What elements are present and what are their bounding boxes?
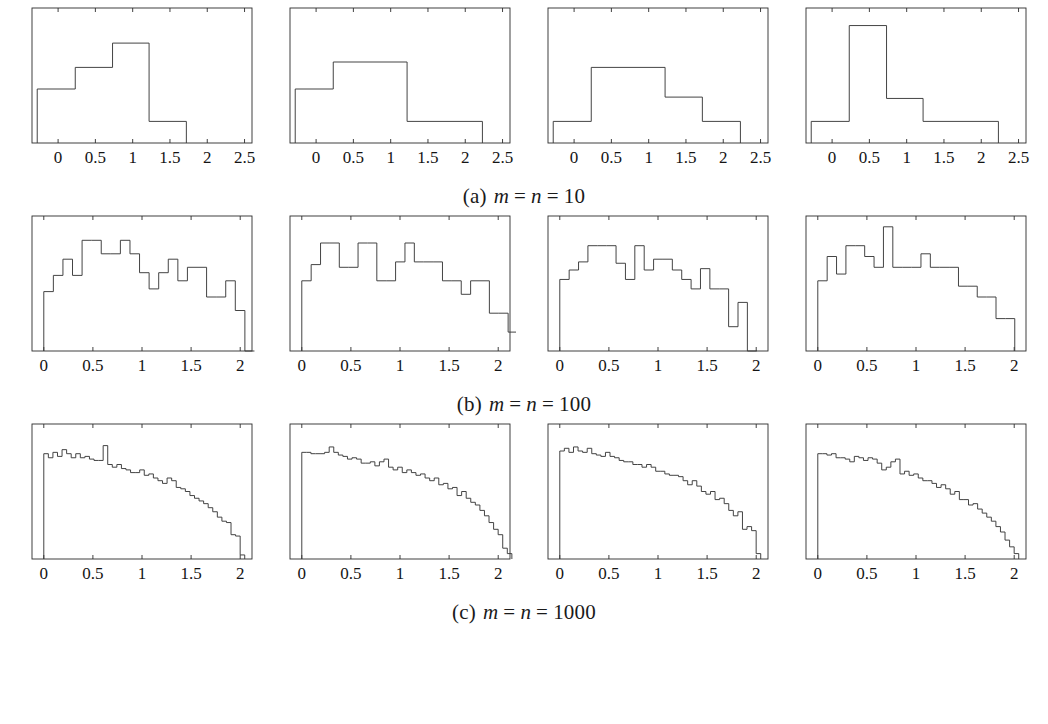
plot-frame [548, 424, 768, 559]
histogram-panel-b2: 00.511.52 [268, 208, 516, 393]
histogram-plot: 00.511.52 [268, 416, 516, 601]
x-tick-label: 0 [828, 148, 837, 167]
caption-a-eq1: = [514, 184, 526, 208]
histogram-panel-a2: 00.511.522.5 [268, 0, 516, 185]
plot-frame [32, 424, 252, 559]
x-tick-label: 2.5 [492, 148, 513, 167]
x-tick-label: 0 [570, 148, 579, 167]
caption-b: (b)m=n=100 [0, 393, 1048, 416]
x-tick-label: 2 [203, 148, 212, 167]
x-tick-label: 2.5 [1008, 148, 1029, 167]
caption-a-eq2: = [547, 184, 559, 208]
caption-a-value: 10 [564, 184, 585, 208]
x-tick-label: 1.5 [438, 564, 459, 583]
x-tick-label: 1 [654, 356, 663, 375]
figure-row-a: 00.511.522.5 00.511.522.5 00.511.522.5 0… [0, 0, 1048, 208]
x-tick-label: 1.5 [438, 356, 459, 375]
x-tick-label: 0.5 [859, 148, 880, 167]
histogram-panel-c2: 00.511.52 [268, 416, 516, 601]
x-tick-label: 0 [556, 356, 565, 375]
histogram-panel-c1: 00.511.52 [10, 416, 258, 601]
panel-row-c: 00.511.52 00.511.52 00.511.52 00.511.52 [0, 416, 1048, 601]
x-tick-label: 0 [298, 564, 307, 583]
x-tick-label: 2 [719, 148, 728, 167]
x-tick-label: 0.5 [856, 564, 877, 583]
caption-a-var1: m [494, 184, 509, 208]
plot-frame [806, 424, 1026, 559]
histogram-step-outline [302, 243, 516, 351]
caption-b-label: (b) [457, 392, 482, 416]
caption-b-var1: m [489, 392, 504, 416]
x-tick-label: 1.5 [180, 356, 201, 375]
histogram-panel-a4: 00.511.522.5 [784, 0, 1032, 185]
caption-a: (a)m=n=10 [0, 185, 1048, 208]
x-tick-label: 2 [1010, 356, 1019, 375]
histogram-panel-a3: 00.511.522.5 [526, 0, 774, 185]
x-tick-label: 0.5 [82, 564, 103, 583]
x-tick-label: 0 [54, 148, 63, 167]
caption-a-label: (a) [463, 184, 487, 208]
histogram-panel-a1: 00.511.522.5 [10, 0, 258, 185]
x-tick-label: 0 [814, 356, 823, 375]
caption-b-var2: n [526, 392, 537, 416]
x-tick-label: 0 [814, 564, 823, 583]
plot-frame [32, 8, 252, 143]
x-tick-label: 2 [494, 564, 503, 583]
histogram-plot: 00.511.522.5 [10, 0, 258, 185]
histogram-plot: 00.511.52 [526, 416, 774, 601]
x-tick-label: 0 [40, 356, 49, 375]
x-tick-label: 0.5 [343, 148, 364, 167]
caption-c-label: (c) [452, 600, 476, 624]
histogram-plot: 00.511.522.5 [526, 0, 774, 185]
histogram-step-outline [560, 447, 761, 559]
x-tick-label: 0 [40, 564, 49, 583]
x-tick-label: 1 [912, 564, 921, 583]
x-tick-label: 1.5 [675, 148, 696, 167]
histogram-step-outline [44, 240, 255, 351]
x-tick-label: 1.5 [954, 564, 975, 583]
x-tick-label: 1.5 [933, 148, 954, 167]
plot-frame [32, 216, 252, 351]
histogram-panel-c3: 00.511.52 [526, 416, 774, 601]
x-tick-label: 1 [396, 356, 405, 375]
x-tick-label: 1 [644, 148, 653, 167]
x-tick-label: 1 [138, 356, 147, 375]
caption-b-eq1: = [509, 392, 521, 416]
histogram-plot: 00.511.52 [10, 208, 258, 393]
x-tick-label: 0 [312, 148, 321, 167]
plot-frame [290, 8, 510, 143]
caption-a-var2: n [531, 184, 542, 208]
caption-c: (c)m=n=1000 [0, 601, 1048, 624]
x-tick-label: 0.5 [601, 148, 622, 167]
x-tick-label: 0.5 [340, 564, 361, 583]
panel-row-b: 00.511.52 00.511.52 00.511.52 00.511.52 [0, 208, 1048, 393]
histogram-step-outline [295, 62, 482, 143]
histogram-panel-b3: 00.511.52 [526, 208, 774, 393]
x-tick-label: 1 [386, 148, 395, 167]
x-tick-label: 0.5 [598, 356, 619, 375]
histogram-step-outline [553, 67, 740, 143]
caption-b-value: 100 [559, 392, 591, 416]
x-tick-label: 1.5 [696, 356, 717, 375]
histogram-plot: 00.511.52 [784, 208, 1032, 393]
x-tick-label: 2.5 [234, 148, 255, 167]
x-tick-label: 0.5 [856, 356, 877, 375]
x-tick-label: 2.5 [750, 148, 771, 167]
x-tick-label: 2 [1010, 564, 1019, 583]
plot-frame [806, 216, 1026, 351]
histogram-plot: 00.511.52 [10, 416, 258, 601]
x-tick-label: 1 [912, 356, 921, 375]
x-tick-label: 0 [298, 356, 307, 375]
histogram-plot: 00.511.52 [526, 208, 774, 393]
panel-row-a: 00.511.522.5 00.511.522.5 00.511.522.5 0… [0, 0, 1048, 185]
x-tick-label: 0.5 [598, 564, 619, 583]
x-tick-label: 2 [236, 564, 245, 583]
histogram-panel-b1: 00.511.52 [10, 208, 258, 393]
x-tick-label: 1.5 [696, 564, 717, 583]
caption-c-var1: m [483, 600, 498, 624]
x-tick-label: 1 [138, 564, 147, 583]
x-tick-label: 2 [977, 148, 986, 167]
histogram-figure: 00.511.522.5 00.511.522.5 00.511.522.5 0… [0, 0, 1048, 724]
x-tick-label: 2 [236, 356, 245, 375]
histogram-step-outline [44, 446, 245, 559]
